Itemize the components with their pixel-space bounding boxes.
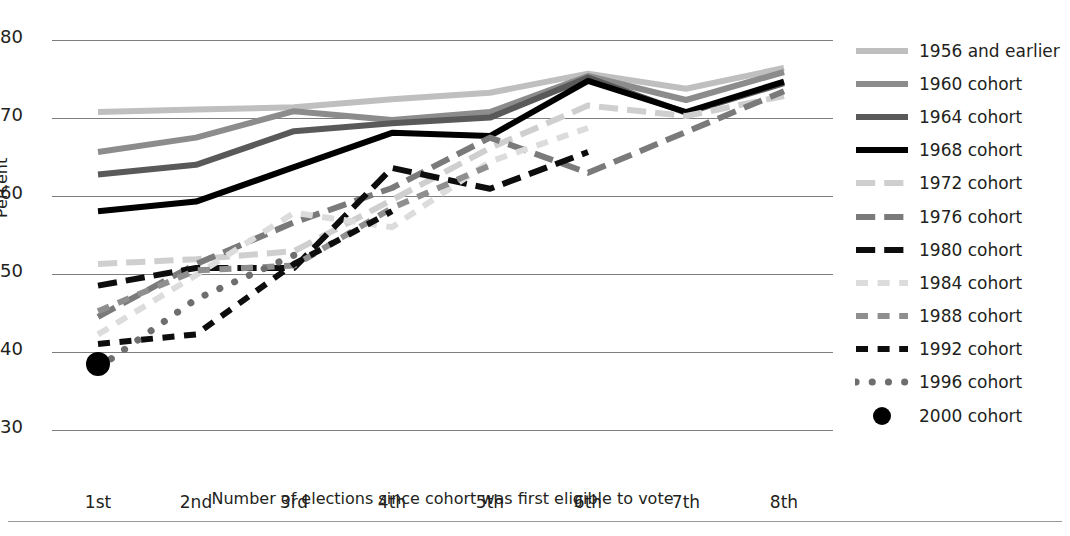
legend-label: 1968 cohort [919,140,1022,160]
plot-canvas: 1st 2nd 3rd 4th 5th 6th 7th 8th [52,40,833,440]
footer-divider [8,521,1062,522]
series-marker-11 [86,352,110,376]
line-swatch-solid-darkgray [855,107,909,127]
legend-label: 1964 cohort [919,107,1022,127]
legend-label: 2000 cohort [919,406,1022,426]
legend-item-1976-cohort[interactable]: 1976 cohort [855,200,1067,233]
legend-item-1964-cohort[interactable]: 1964 cohort [855,100,1067,133]
legend-item-2000-cohort[interactable]: 2000 cohort [855,399,1067,432]
line-swatch-dotted-gray [855,372,909,392]
series-line-7 [98,128,588,334]
line-swatch-shortdash-gray [855,306,909,326]
chart-legend: 1956 and earlier1960 cohort1964 cohort19… [855,34,1067,432]
marker-dot-black [855,406,909,426]
legend-label: 1976 cohort [919,207,1022,227]
y-tick-40: 40 [0,340,44,358]
chart-plot-area: Percent 80 70 60 50 40 30 1st 2nd 3rd 4t… [0,0,845,470]
legend-item-1956-and-earlier[interactable]: 1956 and earlier [855,34,1067,67]
series-line-5 [98,91,784,317]
legend-label: 1956 and earlier [919,41,1060,61]
line-swatch-dashed-lightgray [855,173,909,193]
legend-item-1968-cohort[interactable]: 1968 cohort [855,134,1067,167]
line-swatch-shortdash-lightgray [855,273,909,293]
y-tick-30: 30 [0,418,44,436]
legend-label: 1980 cohort [919,240,1022,260]
series-lines [52,40,833,440]
series-line-6 [98,152,588,286]
legend-label: 1992 cohort [919,339,1022,359]
y-tick-80: 80 [0,28,44,46]
legend-item-1992-cohort[interactable]: 1992 cohort [855,333,1067,366]
legend-item-1988-cohort[interactable]: 1988 cohort [855,300,1067,333]
x-axis-label: Number of elections since cohort was fir… [52,489,833,508]
y-tick-50: 50 [0,262,44,280]
line-swatch-dashed-gray [855,207,909,227]
legend-item-1972-cohort[interactable]: 1972 cohort [855,167,1067,200]
y-tick-70: 70 [0,106,44,124]
chart-figure: Percent 80 70 60 50 40 30 1st 2nd 3rd 4t… [0,0,1070,536]
legend-label: 1960 cohort [919,74,1022,94]
series-line-0 [98,68,784,112]
legend-item-1996-cohort[interactable]: 1996 cohort [855,366,1067,399]
legend-item-1960-cohort[interactable]: 1960 cohort [855,67,1067,100]
line-swatch-solid-black [855,140,909,160]
legend-label: 1984 cohort [919,273,1022,293]
line-swatch-shortdash-black [855,339,909,359]
line-swatch-solid-lightgray [855,41,909,61]
legend-label: 1972 cohort [919,173,1022,193]
legend-label: 1996 cohort [919,372,1022,392]
legend-item-1984-cohort[interactable]: 1984 cohort [855,266,1067,299]
y-tick-60: 60 [0,184,44,202]
legend-item-1980-cohort[interactable]: 1980 cohort [855,233,1067,266]
line-swatch-dashed-black [855,240,909,260]
line-swatch-solid-gray [855,74,909,94]
series-line-8 [98,166,490,312]
legend-label: 1988 cohort [919,306,1022,326]
